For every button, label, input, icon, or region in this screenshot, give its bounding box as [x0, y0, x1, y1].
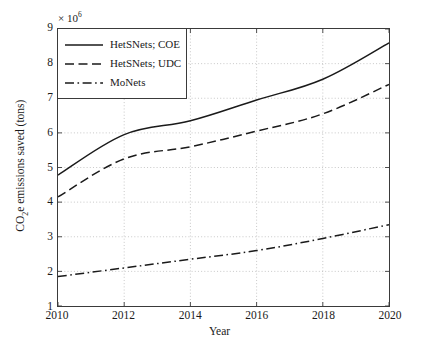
y-axis-title-subscript: 2 — [21, 212, 30, 216]
y-tick-label: 9 — [3, 22, 53, 34]
legend-item-label: MoNets — [110, 77, 145, 88]
x-tick-label: 2010 — [46, 310, 69, 322]
x-tick-label: 2020 — [379, 310, 402, 322]
legend-item[interactable]: HetSNets; COE — [58, 35, 186, 54]
figure: × 106 123456789 HetSNets; COEHetSNets; U… — [0, 0, 439, 347]
series-line — [58, 225, 389, 277]
legend-item-label: HetSNets; UDC — [110, 58, 181, 69]
legend-item[interactable]: HetSNets; UDC — [58, 54, 186, 73]
x-tick-label: 2012 — [112, 310, 135, 322]
legend-line-swatch — [64, 78, 104, 88]
y-axis-title: CO2e emissions saved (tons) — [14, 81, 29, 251]
legend: HetSNets; COEHetSNets; UDCMoNets — [57, 28, 187, 99]
series-line — [58, 84, 389, 197]
x-tick-label: 2018 — [312, 310, 335, 322]
x-tick-label: 2016 — [245, 310, 268, 322]
y-tick-label: 2 — [3, 266, 53, 278]
x-axis-title: Year — [0, 325, 439, 337]
y-axis-multiplier-exponent: 6 — [78, 10, 82, 19]
y-axis-multiplier: × 106 — [58, 11, 82, 24]
legend-line-swatch — [64, 59, 104, 69]
x-tick-label: 2014 — [179, 310, 202, 322]
y-axis-title-post: e emissions saved (tons) — [14, 100, 26, 212]
legend-item[interactable]: MoNets — [58, 73, 186, 92]
legend-item-label: HetSNets; COE — [110, 39, 180, 50]
y-axis-title-pre: CO — [14, 216, 26, 232]
y-axis-multiplier-base: × 10 — [58, 12, 78, 24]
legend-line-swatch — [64, 40, 104, 50]
y-tick-label: 8 — [3, 57, 53, 69]
